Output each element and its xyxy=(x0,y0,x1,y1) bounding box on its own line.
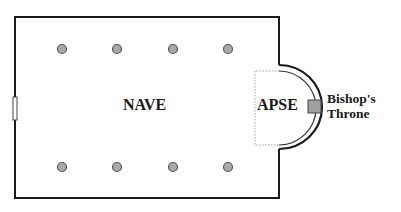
column-icon xyxy=(224,163,233,172)
column-icon xyxy=(169,45,178,54)
bishops-throne-icon xyxy=(308,100,321,113)
nave-label: NAVE xyxy=(123,96,166,114)
entrance-door xyxy=(13,97,17,120)
column-icon xyxy=(113,45,122,54)
column-icon xyxy=(58,45,67,54)
column-icon xyxy=(169,163,178,172)
columns-top-row xyxy=(58,45,233,54)
column-icon xyxy=(224,45,233,54)
column-icon xyxy=(58,163,67,172)
throne-label-line1: Bishop's xyxy=(327,91,376,106)
columns-bottom-row xyxy=(58,163,233,172)
apse-label: APSE xyxy=(257,96,298,114)
column-icon xyxy=(113,163,122,172)
throne-label-line2: Throne xyxy=(327,106,376,121)
bishops-throne-label: Bishop's Throne xyxy=(327,91,376,121)
